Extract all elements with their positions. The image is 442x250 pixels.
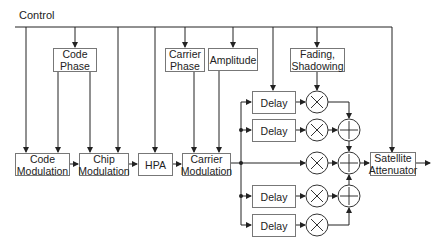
control-label: Control xyxy=(19,9,54,21)
delay-block-3: Delay xyxy=(252,185,296,208)
delay-block-1: Delay xyxy=(252,91,296,114)
carrier-phase-block: Carrier Phase xyxy=(165,48,205,72)
amplitude-block: Amplitude xyxy=(208,48,258,71)
code-modulation-block: Code Modulation xyxy=(15,153,70,176)
delay-block-2: Delay xyxy=(252,119,296,142)
delay-block-4: Delay xyxy=(252,214,296,237)
satellite-attenuator-block: Satellite Attenuator xyxy=(370,152,416,176)
diagram-lines xyxy=(0,0,442,250)
hpa-block: HPA xyxy=(138,153,173,176)
code-phase-block: Code Phase xyxy=(53,48,97,72)
chip-modulation-block: Chip Modulation xyxy=(79,153,129,176)
fading-shadowing-block: Fading, Shadowing xyxy=(290,48,345,72)
carrier-modulation-block: Carrier Modulation xyxy=(182,153,231,176)
